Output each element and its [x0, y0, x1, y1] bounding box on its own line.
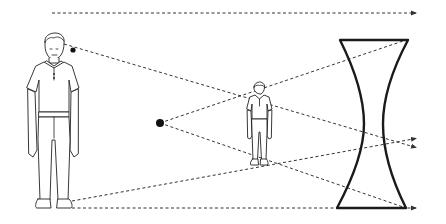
diagram-canvas: [0, 0, 446, 224]
optics-diagram: Diverging (concave) lens forming a reduc…: [0, 0, 446, 224]
rays: [52, 13, 416, 208]
focal-point-icon: [156, 119, 164, 127]
focal-ray-down: [160, 123, 406, 208]
object-person-figure: [27, 33, 79, 208]
focal-ray-up: [160, 40, 406, 123]
marker-dot-icon: [70, 47, 75, 52]
image-person-figure: [247, 82, 272, 165]
concave-lens: [337, 40, 408, 208]
feet-ray-up: [72, 139, 416, 202]
